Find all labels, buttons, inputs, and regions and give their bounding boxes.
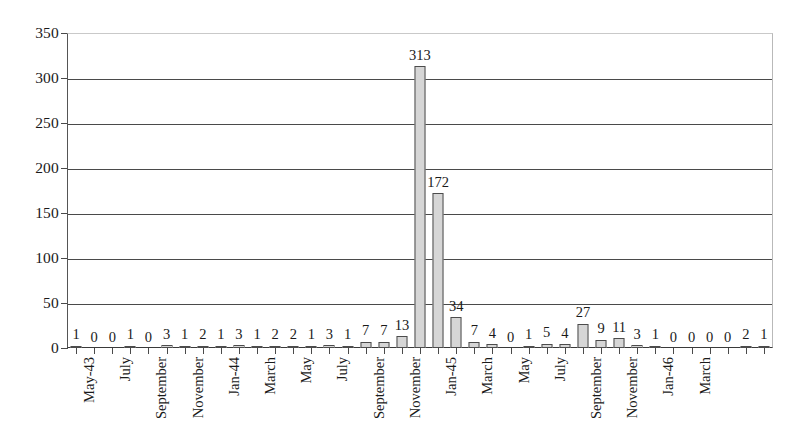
x-axis-tick — [221, 348, 222, 354]
x-axis-tick-label: May — [299, 357, 314, 384]
x-axis-tick — [764, 348, 765, 354]
bar-slot: 172 — [429, 33, 447, 348]
bar-slot: 2 — [284, 33, 302, 348]
bar-value-label: 313 — [409, 48, 431, 63]
bar-slot: 1 — [121, 33, 139, 348]
bar-slot: 1 — [212, 33, 230, 348]
bar-value-label: 13 — [395, 318, 410, 333]
bars-layer: 1001031213122131771331317234740154279113… — [67, 33, 773, 348]
x-axis-tick — [311, 348, 312, 354]
bar-slot: 0 — [701, 33, 719, 348]
y-axis-tick-label: 350 — [3, 25, 59, 41]
bar — [414, 66, 425, 348]
bar-slot: 2 — [737, 33, 755, 348]
x-axis-tick — [583, 348, 584, 354]
x-axis-tick — [130, 348, 131, 354]
bar-value-label: 1 — [344, 327, 351, 342]
bar-slot: 34 — [447, 33, 465, 348]
bar-value-label: 1 — [127, 327, 134, 342]
x-axis-tick — [366, 348, 367, 354]
bar-value-label: 0 — [724, 330, 731, 345]
x-axis-tick — [673, 348, 674, 354]
bar-slot: 0 — [103, 33, 121, 348]
x-axis-tick — [710, 348, 711, 354]
bar-value-label: 172 — [427, 175, 449, 190]
bar-value-label: 1 — [760, 327, 767, 342]
bar-value-label: 1 — [181, 327, 188, 342]
x-axis-tick-label: March — [698, 357, 713, 395]
bar-value-label: 0 — [145, 330, 152, 345]
bar-slot: 4 — [556, 33, 574, 348]
x-axis-tick-label: July — [118, 357, 133, 381]
x-axis-tick — [257, 348, 258, 354]
bar-value-label: 4 — [561, 326, 568, 341]
bar-slot: 1 — [67, 33, 85, 348]
bar-slot: 2 — [266, 33, 284, 348]
bar-value-label: 7 — [380, 323, 387, 338]
bar-slot: 11 — [610, 33, 628, 348]
bar-slot: 1 — [520, 33, 538, 348]
y-axis-tick-label: 250 — [3, 115, 59, 131]
bar — [433, 193, 444, 348]
x-axis-tick — [148, 348, 149, 354]
bar-slot: 0 — [85, 33, 103, 348]
x-axis-tick — [348, 348, 349, 354]
bar-value-label: 4 — [489, 326, 496, 341]
bar-slot: 3 — [320, 33, 338, 348]
bar-slot: 1 — [248, 33, 266, 348]
x-axis-tick-label: September — [154, 357, 169, 419]
bar-slot: 1 — [755, 33, 773, 348]
x-axis-tick — [384, 348, 385, 354]
bar-value-label: 3 — [326, 327, 333, 342]
y-axis-tick-label: 100 — [3, 250, 59, 266]
bar-value-label: 1 — [652, 327, 659, 342]
x-axis-tick — [547, 348, 548, 354]
bar-slot: 5 — [538, 33, 556, 348]
x-axis-tick-label: Jan-46 — [661, 357, 676, 396]
x-axis-tick-label: July — [553, 357, 568, 381]
x-axis-tick-label: May — [517, 357, 532, 384]
bar-value-label: 3 — [163, 327, 170, 342]
bar-value-label: 3 — [235, 327, 242, 342]
x-axis-tick — [420, 348, 421, 354]
x-axis-tick-label: May-43 — [82, 357, 97, 403]
bar-slot: 1 — [302, 33, 320, 348]
x-axis-tick-label: November — [625, 357, 640, 418]
x-axis-tick-label: September — [589, 357, 604, 419]
bar — [596, 340, 607, 348]
bar-value-label: 7 — [362, 323, 369, 338]
x-axis-tick-label: November — [191, 357, 206, 418]
x-axis-tick — [511, 348, 512, 354]
x-axis-tick — [619, 348, 620, 354]
x-axis-tick-label: July — [335, 357, 350, 381]
x-axis-tick-label: September — [372, 357, 387, 419]
x-axis-tick — [203, 348, 204, 354]
bar-value-label: 2 — [742, 327, 749, 342]
bar-value-label: 1 — [253, 327, 260, 342]
bar-value-label: 11 — [612, 320, 626, 335]
bar-value-label: 2 — [199, 327, 206, 342]
bar-slot: 7 — [375, 33, 393, 348]
x-axis-tick — [746, 348, 747, 354]
x-axis-tick — [474, 348, 475, 354]
bar-value-label: 0 — [109, 330, 116, 345]
bar-slot: 0 — [682, 33, 700, 348]
x-axis-tick-label: November — [408, 357, 423, 418]
x-axis-tick-label: Jan-45 — [444, 357, 459, 396]
bar-value-label: 1 — [217, 327, 224, 342]
bar — [614, 338, 625, 348]
bar-slot: 0 — [501, 33, 519, 348]
bar-value-label: 27 — [576, 305, 591, 320]
bar-slot: 2 — [194, 33, 212, 348]
x-axis-tick — [167, 348, 168, 354]
bar-value-label: 1 — [72, 327, 79, 342]
bar-chart: 050100150200250300350 100103121312213177… — [0, 0, 811, 447]
bar-slot: 0 — [719, 33, 737, 348]
bar-slot: 27 — [574, 33, 592, 348]
bar-slot: 3 — [628, 33, 646, 348]
bar-value-label: 0 — [688, 330, 695, 345]
y-axis-tick-label: 50 — [3, 295, 59, 311]
bar-slot: 1 — [339, 33, 357, 348]
x-axis-tick — [692, 348, 693, 354]
bar-slot: 1 — [176, 33, 194, 348]
